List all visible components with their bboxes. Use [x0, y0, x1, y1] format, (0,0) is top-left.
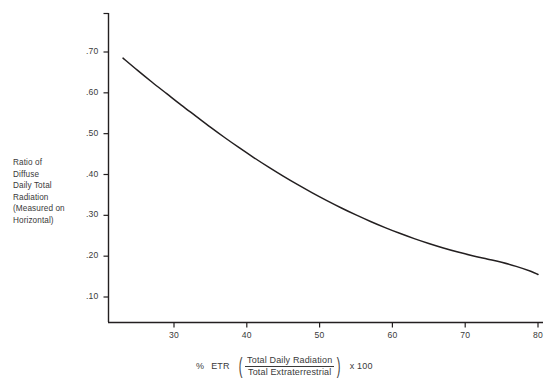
x-axis-caption-etr: ETR — [211, 361, 229, 371]
x-axis-caption: % ETR ( Total Daily Radiation Total Extr… — [196, 355, 378, 377]
y-axis-label-line-1: Ratio of — [13, 157, 99, 169]
y-tick-label: .40 — [73, 169, 99, 179]
x-tick-label: 60 — [380, 330, 404, 340]
y-tick-label: .20 — [73, 250, 99, 260]
x-axis-caption-fraction: Total Daily Radiation Total Extraterrest… — [245, 355, 334, 377]
y-tick-label: .10 — [73, 291, 99, 301]
x-tick-label: 30 — [162, 330, 186, 340]
y-tick-label: .70 — [73, 46, 99, 56]
x-axis-caption-multiplier: x 100 — [350, 361, 373, 371]
y-axis-label-line-4: Radiation — [13, 192, 99, 204]
x-axis-caption-percent: % — [196, 361, 204, 371]
x-tick-label: 70 — [453, 330, 477, 340]
y-axis-ticks — [104, 14, 109, 298]
y-axis-label-line-3: Daily Total — [13, 180, 99, 192]
y-tick-label: .30 — [73, 209, 99, 219]
y-tick-label: .60 — [73, 87, 99, 97]
fraction-numerator: Total Daily Radiation — [245, 355, 334, 367]
y-tick-label: .50 — [73, 128, 99, 138]
x-axis-ticks — [174, 323, 538, 328]
x-tick-label: 40 — [235, 330, 259, 340]
x-tick-label: 50 — [308, 330, 332, 340]
fraction-denominator: Total Extraterrestrial — [246, 367, 333, 378]
x-tick-label: 80 — [526, 330, 548, 340]
data-series-line — [123, 58, 538, 274]
